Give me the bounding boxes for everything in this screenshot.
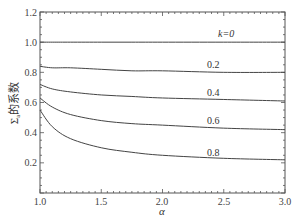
x-tick-label: 1.0 bbox=[34, 196, 47, 207]
curve-labels: k=0 0.2 0.4 0.6 0.8 bbox=[207, 28, 234, 158]
y-tick-label: 0.8 bbox=[25, 67, 38, 78]
y-tick-label: 1.0 bbox=[25, 37, 38, 48]
line-chart: 0.2 0.4 0.6 0.8 1.0 1.2 1.0 1.5 2.0 2.5 … bbox=[0, 0, 299, 222]
curve-k04 bbox=[40, 84, 285, 101]
curve-label-k0: k=0 bbox=[218, 28, 234, 39]
x-tick-label: 1.5 bbox=[95, 196, 108, 207]
x-tick-label: 2.5 bbox=[218, 196, 231, 207]
curves bbox=[40, 42, 285, 160]
y-tick-label: 1.2 bbox=[25, 7, 38, 18]
svg-text:Σa的系数: Σa的系数 bbox=[7, 82, 22, 125]
curve-k08 bbox=[40, 110, 285, 160]
curve-k02 bbox=[40, 66, 285, 72]
y-axis-title: Σa的系数 bbox=[7, 82, 22, 125]
curve-label-k04: 0.4 bbox=[207, 87, 220, 98]
plot-frame bbox=[40, 12, 285, 193]
minor-ticks bbox=[40, 12, 285, 193]
x-axis-title: α bbox=[159, 205, 165, 217]
curve-k06 bbox=[40, 98, 285, 130]
y-axis-title-rest: 的系数 bbox=[7, 82, 20, 115]
y-tick-label: 0.2 bbox=[25, 157, 38, 168]
y-tick-label: 0.4 bbox=[25, 127, 38, 138]
x-tick-label: 3.0 bbox=[279, 196, 292, 207]
curve-label-k02: 0.2 bbox=[207, 59, 220, 70]
curve-label-k06: 0.6 bbox=[207, 115, 220, 126]
curve-label-k08: 0.8 bbox=[207, 147, 220, 158]
y-tick-labels: 0.2 0.4 0.6 0.8 1.0 1.2 bbox=[25, 7, 38, 168]
y-tick-label: 0.6 bbox=[25, 97, 38, 108]
